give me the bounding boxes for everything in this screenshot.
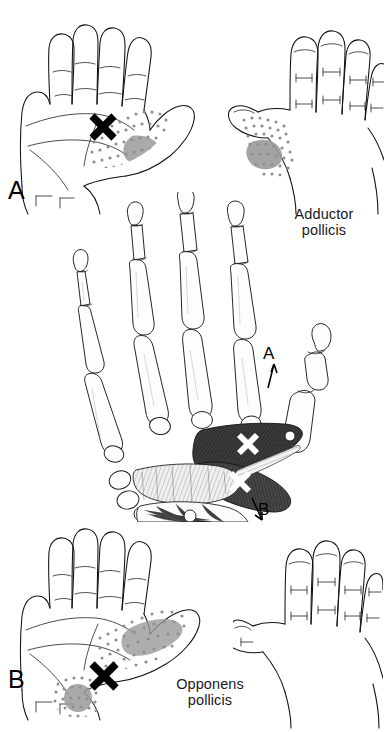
callout-label-a: A <box>263 344 274 364</box>
center-skeletal-hand-diagram <box>52 192 372 522</box>
label-opponens-pollicis: Opponens pollicis <box>152 676 268 708</box>
panel-letter-a: A <box>8 176 25 205</box>
label-line-1: Opponens <box>152 676 268 692</box>
referred-pain-stipple <box>239 109 294 178</box>
callout-arrow-a <box>268 364 277 388</box>
referred-pain-stipple <box>91 110 178 179</box>
label-line-2: pollicis <box>152 692 268 708</box>
panel-a-dorsal-hand <box>224 8 384 218</box>
callout-label-b: B <box>258 500 269 520</box>
panel-a-palmar-hand <box>0 0 200 220</box>
bone-sesamoid <box>285 431 295 441</box>
panel-letter-b: B <box>8 665 25 694</box>
